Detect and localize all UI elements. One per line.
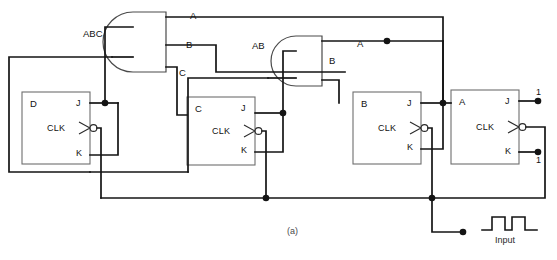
junction-input-tap (460, 229, 467, 236)
clk-bubble-d (90, 125, 97, 132)
wire-ffd-clk-out (97, 128, 101, 198)
signal-label-a-second: A (357, 39, 363, 49)
flipflop-a-pin-j: J (505, 97, 510, 106)
junction-ffa-j-high (535, 98, 542, 105)
and-gate-abc (103, 12, 166, 72)
flipflop-c-pin-k: K (241, 146, 247, 155)
logic-diagram-figure: ABC A B C AB A B D J CLK K C J CLK K B J… (0, 0, 557, 260)
junction-a-rail (384, 38, 391, 45)
flipflop-b-pin-j: J (407, 99, 412, 108)
clk-bubble-b (421, 125, 428, 132)
and-gates (103, 12, 322, 86)
constant-j-high: 1 (536, 88, 541, 97)
junction-ffd-j (102, 100, 109, 107)
flipflop-c-pin-j: J (241, 104, 246, 113)
wire-b-second-rail (322, 80, 339, 103)
junction-ffb-j (440, 100, 447, 107)
signal-label-a-top: A (190, 11, 196, 21)
figure-caption: (a) (287, 227, 298, 236)
circuit-canvas (0, 0, 557, 260)
clk-edge-markers (79, 121, 526, 137)
clk-bubble-a (519, 124, 526, 131)
flipflop-label-b: B (361, 99, 367, 109)
input-waveform-trace (482, 217, 537, 230)
signal-label-abc: ABC (83, 29, 103, 39)
junction-clock-bus-left (263, 195, 270, 202)
flipflop-label-a: A (459, 97, 465, 107)
wire-ffb-clk-out (428, 128, 432, 198)
signal-label-b-left: B (186, 40, 192, 50)
clk-triangle-c (244, 125, 255, 137)
flipflop-a-pin-k: K (505, 147, 511, 156)
input-waveform-label: Input (495, 236, 515, 245)
flipflop-label-d: D (30, 99, 37, 109)
clk-bubble-c (255, 128, 262, 135)
flipflop-c-pin-clk: CLK (212, 127, 230, 136)
junction-clock-bus-right (429, 195, 436, 202)
flipflop-b-pin-clk: CLK (378, 124, 396, 133)
flipflop-d-pin-k: K (76, 149, 82, 158)
clk-triangle-a (508, 121, 519, 133)
signal-label-b-right: B (329, 56, 335, 66)
constant-k-high: 1 (536, 156, 541, 165)
signal-label-c: C (179, 68, 186, 78)
junction-ffc-j (280, 110, 287, 117)
wire-ffc-clk-out (262, 131, 266, 198)
flipflop-d-pin-j: J (76, 99, 81, 108)
wire-ab-lower-feedback (188, 78, 268, 172)
flipflop-d-pin-clk: CLK (47, 124, 65, 133)
signal-label-ab: AB (252, 41, 265, 51)
flipflop-a-pin-clk: CLK (476, 123, 494, 132)
wire-clock-to-input (432, 198, 463, 232)
clk-triangle-b (410, 122, 421, 134)
flipflop-b-pin-k: K (407, 143, 413, 152)
clk-triangle-d (79, 122, 90, 134)
wire-ffa-clk-out (432, 127, 545, 198)
flipflop-label-c: C (195, 104, 202, 114)
